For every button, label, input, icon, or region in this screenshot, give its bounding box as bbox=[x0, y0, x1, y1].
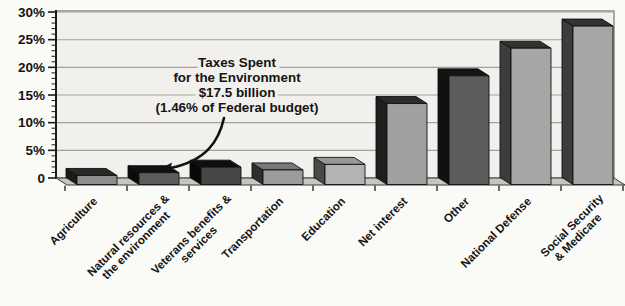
bar-national-defense bbox=[500, 41, 551, 184]
bar-front-face bbox=[263, 170, 303, 185]
bar-front-face bbox=[139, 173, 179, 185]
bar-other bbox=[438, 69, 489, 185]
bar-agriculture bbox=[66, 168, 117, 184]
y-tick-label-0: 0 bbox=[37, 171, 45, 186]
x-axis-labels: AgricultureNatural resources &the enviro… bbox=[46, 191, 614, 287]
bar-side-face bbox=[562, 19, 573, 184]
x-label-natural-resources-the-environment: Natural resources &the environment bbox=[84, 191, 180, 287]
y-tick-label-20%: 20% bbox=[18, 60, 45, 75]
annotation-line-2: for the Environment bbox=[173, 70, 301, 85]
x-label-net-interest: Net interest bbox=[355, 194, 409, 248]
bar-front-face bbox=[201, 167, 241, 184]
y-tick-label-30%: 30% bbox=[18, 5, 45, 20]
bar-side-face bbox=[438, 69, 449, 185]
x-axis-ticks bbox=[65, 186, 623, 192]
federal-budget-bar-chart: Taxes Spentfor the Environment$17.5 bill… bbox=[0, 0, 625, 306]
y-tick-label-10%: 10% bbox=[18, 115, 45, 130]
bar-front-face bbox=[449, 76, 489, 185]
x-label-education: Education bbox=[299, 194, 348, 243]
bar-veterans-benefits-services bbox=[190, 160, 241, 184]
bar-education bbox=[314, 157, 365, 184]
annotation-line-4: (1.46% of Federal budget) bbox=[156, 100, 319, 115]
x-label-other: Other bbox=[440, 194, 471, 225]
bar-transportation bbox=[252, 163, 303, 185]
bar-side-face bbox=[500, 41, 511, 184]
y-tick-label-15%: 15% bbox=[18, 88, 45, 103]
bar-social-security-medicare bbox=[562, 19, 613, 184]
bar-front-face bbox=[77, 175, 117, 184]
bar-chart-canvas: Taxes Spentfor the Environment$17.5 bill… bbox=[0, 0, 625, 306]
y-tick-label-5%: 5% bbox=[25, 143, 45, 158]
y-axis: 30%25%20%15%10%5%0 bbox=[18, 5, 56, 186]
annotation-line-1: Taxes Spent bbox=[198, 55, 276, 70]
annotation-line-3: $17.5 billion bbox=[199, 85, 276, 100]
y-tick-label-25%: 25% bbox=[18, 32, 45, 47]
x-label-social-security-medicare: Social Security& Medicare bbox=[537, 191, 614, 268]
bar-front-face bbox=[511, 48, 551, 184]
bar-front-face bbox=[325, 164, 365, 184]
bar-front-face bbox=[573, 26, 613, 184]
x-label-agriculture: Agriculture bbox=[46, 194, 99, 247]
bar-net-interest bbox=[376, 97, 427, 185]
bar-side-face bbox=[376, 97, 387, 185]
bar-front-face bbox=[387, 104, 427, 185]
